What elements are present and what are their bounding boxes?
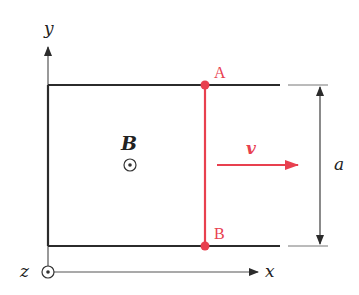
field-out-of-page-icon	[124, 159, 136, 171]
z-axis-label: z	[19, 261, 30, 281]
point-a-dot	[201, 81, 210, 90]
velocity-label: v	[246, 138, 257, 158]
z-axis-out-of-page-icon	[42, 266, 54, 278]
rod-on-rails-diagram: y A B B v a x z	[0, 0, 359, 295]
point-b-label: B	[214, 225, 225, 242]
y-axis-label: y	[43, 18, 54, 38]
x-axis-label: x	[265, 261, 275, 281]
magnetic-field-label: B	[120, 132, 137, 154]
point-a-label: A	[214, 64, 226, 81]
point-b-dot	[201, 242, 210, 251]
dimension-a-label: a	[334, 154, 344, 174]
